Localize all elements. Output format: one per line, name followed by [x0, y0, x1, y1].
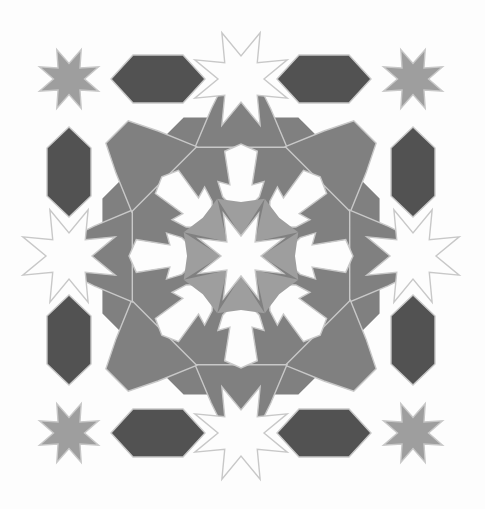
tile-pattern-canvas: Islamic Eight-Fold Geometric Star Tile S… — [0, 0, 485, 509]
